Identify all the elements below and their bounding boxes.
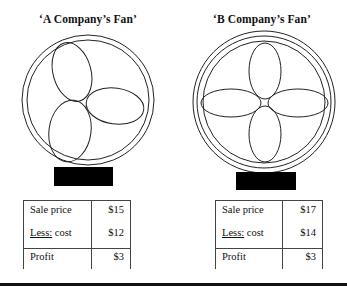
cost-text: cost — [244, 227, 264, 238]
fan-a-blade-right — [84, 84, 146, 128]
fan-a-stand — [54, 167, 113, 186]
row-label: Sale price — [222, 204, 264, 215]
bottom-rule — [0, 283, 347, 286]
fan-b-middle-ring — [197, 36, 331, 168]
row-label: Profit — [222, 251, 246, 262]
fan-b-blade-top — [249, 43, 281, 99]
table-row-cost: Less: cost $14 — [216, 224, 322, 244]
row-value: $3 — [114, 251, 125, 262]
row-label: Less: cost — [222, 227, 264, 238]
less-prefix: Less: — [222, 227, 244, 238]
less-prefix: Less: — [30, 227, 52, 238]
row-value: $15 — [108, 204, 124, 215]
fan-a-drawing — [22, 35, 154, 165]
fan-b-blade-right — [268, 89, 328, 117]
row-value: $12 — [108, 227, 124, 238]
row-label: Profit — [30, 251, 54, 262]
fan-b-stand — [236, 172, 296, 190]
table-row-sale-price: Sale price $17 — [216, 201, 322, 221]
fan-b-drawing — [193, 31, 335, 173]
fan-b-inner-ring — [203, 41, 325, 163]
fan-b-price-table: Sale price $17 Less: cost $14 Profit $3 — [215, 200, 323, 269]
row-value: $17 — [300, 204, 316, 215]
cost-text: cost — [52, 227, 72, 238]
row-value: $14 — [300, 227, 316, 238]
row-label: Less: cost — [30, 227, 72, 238]
fan-a-blade-top — [46, 38, 98, 106]
table-row-profit: Profit $3 — [24, 248, 130, 268]
fan-a-price-table: Sale price $15 Less: cost $12 Profit $3 — [23, 200, 131, 269]
fan-b-blade-bottom — [249, 106, 281, 162]
fan-a-inner-ring — [27, 40, 149, 160]
row-value: $3 — [306, 251, 317, 262]
table-row-cost: Less: cost $12 — [24, 224, 130, 244]
table-row-profit: Profit $3 — [216, 248, 322, 268]
fan-b-outer-ring — [193, 31, 335, 173]
table-row-sale-price: Sale price $15 — [24, 201, 130, 221]
fan-b-blade-left — [201, 89, 261, 117]
row-label: Sale price — [30, 204, 72, 215]
